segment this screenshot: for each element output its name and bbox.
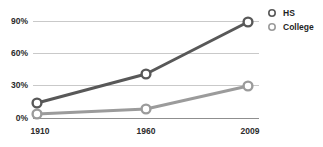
y-axis-tick-labels: 90% 60% 30% 0% xyxy=(11,16,28,123)
y-tick-label-30: 30% xyxy=(11,80,28,90)
x-tick-label-1960: 1960 xyxy=(137,126,156,136)
data-point-college-1960 xyxy=(142,105,151,114)
legend-label-hs: HS xyxy=(283,8,295,18)
data-point-college-1910 xyxy=(33,110,42,119)
series-line-hs xyxy=(37,22,248,103)
y-tick-label-60: 60% xyxy=(11,48,28,58)
y-tick-label-0: 0% xyxy=(16,113,29,123)
y-tick-label-90: 90% xyxy=(11,16,28,26)
legend-item-hs[interactable]: HS xyxy=(269,8,295,18)
x-tick-label-2009: 2009 xyxy=(241,126,260,136)
data-point-college-2009 xyxy=(244,82,253,91)
series-college xyxy=(33,82,253,119)
chart-canvas: 90% 60% 30% 0% 1910 1960 2009 xyxy=(0,0,323,147)
legend-item-college[interactable]: College xyxy=(269,22,314,32)
x-tick-label-1910: 1910 xyxy=(31,126,50,136)
data-point-hs-2009 xyxy=(244,18,253,27)
legend-marker-hs xyxy=(269,10,275,16)
legend-label-college: College xyxy=(283,22,314,32)
chart-legend: HS College xyxy=(269,8,314,32)
data-point-hs-1960 xyxy=(142,70,151,79)
legend-marker-college xyxy=(269,24,275,30)
x-axis-tick-labels: 1910 1960 2009 xyxy=(31,126,260,136)
data-point-hs-1910 xyxy=(33,99,42,108)
line-chart: 90% 60% 30% 0% 1910 1960 2009 xyxy=(0,0,323,147)
